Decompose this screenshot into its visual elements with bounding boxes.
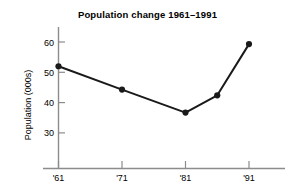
x-tick-label-91: '91 [243, 173, 255, 183]
y-tick-label-60: 60 [44, 38, 54, 48]
data-point-marker: '71: 44.3 [119, 86, 125, 92]
data-point-marker: '91: 59.3 [246, 41, 252, 47]
x-tick-label-81: '81 [180, 173, 192, 183]
data-markers-population: '61: 52'71: 44.3'81: 36.7'86: 42.4'91: 5… [55, 41, 252, 116]
data-point-marker: '81: 36.7 [182, 110, 188, 116]
data-point-marker: '61: 52 [55, 63, 61, 69]
y-tick-label-40: 40 [44, 98, 54, 108]
x-axis-ticks [59, 161, 250, 169]
data-point-marker: '86: 42.4 [214, 92, 220, 98]
data-line-population [59, 44, 250, 112]
y-axis-ticks [59, 42, 66, 133]
chart-container: Population change 1961–1991 60 50 40 30 … [0, 0, 295, 195]
y-axis-title: Population (000s) [23, 70, 33, 141]
x-tick-label-71: '71 [116, 173, 128, 183]
x-tick-label-61: '61 [53, 173, 65, 183]
line-chart-plot: 60 50 40 30 Population (000s) '61 '71 '8… [0, 0, 295, 195]
y-tick-label-50: 50 [44, 68, 54, 78]
y-tick-label-30: 30 [44, 128, 54, 138]
